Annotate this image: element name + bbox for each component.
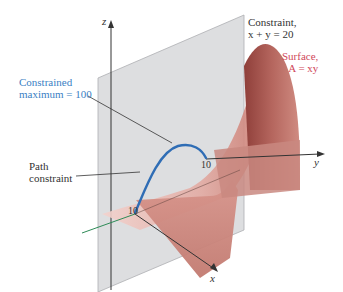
- path-label-line1: Path: [29, 160, 72, 172]
- y-tick-10: 10: [201, 159, 211, 171]
- diagram: z x y 10 10 Constraint, x + y = 20 Surfa…: [0, 0, 343, 292]
- constraint-label-line1: Constraint,: [248, 16, 297, 28]
- surface-label-line1: Surface,: [282, 50, 318, 62]
- constraint-label: Constraint, x + y = 20: [248, 16, 297, 40]
- x-tick-10: 10: [128, 205, 138, 217]
- surface-right-panel: [214, 140, 300, 198]
- max-label-line1: Constrained: [19, 76, 92, 88]
- y-axis-label: y: [314, 156, 319, 168]
- z-axis-label: z: [102, 15, 106, 27]
- constraint-label-line2: x + y = 20: [248, 28, 297, 40]
- z-axis-arrow-icon: [108, 20, 114, 28]
- surface-label: Surface, A = xy: [282, 50, 318, 74]
- path-constraint-label: Path constraint: [29, 160, 72, 184]
- constrained-maximum-label: Constrained maximum = 100: [19, 76, 92, 100]
- surface-label-line2: A = xy: [282, 62, 318, 74]
- path-label-line2: constraint: [29, 172, 72, 184]
- max-label-line2: maximum = 100: [19, 88, 92, 100]
- x-axis-label: x: [210, 272, 215, 284]
- diagram-canvas: [0, 0, 343, 292]
